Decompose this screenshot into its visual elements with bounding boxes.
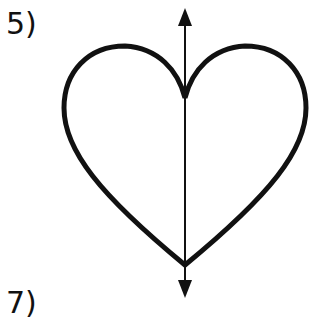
arrow-down-icon xyxy=(178,280,192,298)
problem-number-7: 7) xyxy=(6,288,37,318)
heart-symmetry-figure xyxy=(0,0,313,320)
arrow-up-icon xyxy=(178,8,192,26)
